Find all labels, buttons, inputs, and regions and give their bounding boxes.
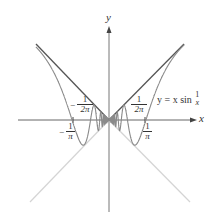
x-axis-label: x — [199, 112, 204, 124]
tick-label-neg-inv-2pi: 1 2π — [77, 95, 93, 114]
tick-label-denominator: π — [66, 132, 75, 141]
figure: y x y = x sin 1 x − 1 2π 1 2π − 1 π 1 π — [0, 0, 217, 220]
function-label-prefix: y = x sin — [157, 94, 192, 105]
tick-label-denominator: π — [143, 132, 152, 141]
y-axis-arrow-icon — [107, 26, 112, 33]
x-axis-arrow-icon — [190, 118, 197, 123]
tick-label-inv-2pi: 1 2π — [131, 95, 147, 114]
function-label-fraction: 1 x — [194, 91, 200, 107]
y-axis-label: y — [106, 11, 111, 23]
plot-canvas — [0, 0, 217, 220]
tick-label-neg-inv-pi-sign: − — [59, 127, 64, 137]
fraction-denominator: x — [194, 99, 200, 107]
tick-label-denominator: 2π — [131, 105, 147, 114]
tick-label-denominator: 2π — [77, 105, 93, 114]
tick-label-neg-inv-2pi-sign: − — [70, 100, 75, 110]
tick-label-inv-pi: 1 π — [143, 122, 152, 141]
tick-label-neg-inv-pi: 1 π — [66, 122, 75, 141]
function-label: y = x sin 1 x — [157, 91, 200, 107]
